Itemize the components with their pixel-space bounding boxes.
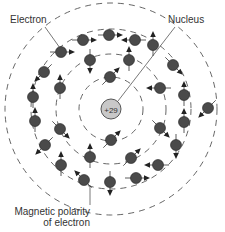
polarity-arrow-icon <box>107 190 113 196</box>
polarity-arrow-icon <box>150 31 156 37</box>
electron-body <box>85 55 96 66</box>
electron-body <box>104 30 115 41</box>
electron-body <box>203 103 214 114</box>
electron-body <box>39 67 50 78</box>
electron-body <box>130 35 141 46</box>
electron-body <box>85 152 96 163</box>
electron-body <box>126 153 137 164</box>
electron-body <box>168 60 179 71</box>
electron <box>152 120 170 138</box>
electron <box>179 81 190 106</box>
electron <box>144 160 169 171</box>
polarity-arrow-icon <box>91 37 97 43</box>
electron-body <box>179 90 190 101</box>
electron-label: Electron <box>10 14 47 25</box>
electron-body <box>78 35 89 46</box>
electron <box>165 57 183 75</box>
polarity-arrow-icon <box>146 85 152 91</box>
electron <box>103 130 121 148</box>
electron-body <box>56 47 67 58</box>
polarity-arrow-icon <box>87 68 93 74</box>
electron <box>55 74 66 99</box>
electron <box>56 151 67 176</box>
polarity-arrow-icon <box>121 37 127 43</box>
electron-body <box>171 140 182 151</box>
electron <box>72 35 97 46</box>
nucleus-label: Nucleus <box>168 14 204 25</box>
electron <box>121 35 146 46</box>
electron-body <box>105 72 116 83</box>
electron <box>35 137 53 155</box>
electron-body <box>179 117 190 128</box>
polarity-label-line1: Magnetic polarity <box>10 206 90 217</box>
electron <box>50 47 75 58</box>
magnetic-polarity-label: Magnetic polarity of electron <box>10 206 90 228</box>
electron <box>30 107 41 132</box>
electron-body <box>148 40 159 51</box>
electron <box>125 173 150 184</box>
polarity-arrow-icon <box>58 151 64 157</box>
polarity-arrow-icon <box>57 74 63 80</box>
electron <box>98 30 123 41</box>
polarity-arrow-icon <box>181 108 187 114</box>
polarity-arrow-icon <box>144 175 150 181</box>
electron-body <box>56 160 67 171</box>
atom-diagram: +29 <box>0 0 225 232</box>
electron-body <box>106 135 117 146</box>
polarity-arrow-icon <box>173 153 179 159</box>
nucleus-charge: +29 <box>104 106 118 115</box>
electron-body <box>155 83 166 94</box>
polarity-arrow-icon <box>117 32 123 38</box>
nucleus: +29 <box>101 99 121 119</box>
electron-body <box>28 92 39 103</box>
electron <box>198 100 216 118</box>
electron <box>146 83 171 94</box>
polarity-label-line2: of electron <box>10 217 90 228</box>
electron-body <box>131 173 142 184</box>
polarity-arrow-icon <box>87 143 93 149</box>
electron-leader-line <box>45 27 60 48</box>
electron-body <box>105 177 116 188</box>
electron <box>102 67 120 85</box>
electron-body <box>30 116 41 127</box>
electron <box>124 46 135 71</box>
electron <box>179 108 190 133</box>
electron-body <box>79 175 90 186</box>
electron <box>52 121 70 139</box>
electron <box>74 170 92 188</box>
polarity-arrow-icon <box>144 162 150 168</box>
electron <box>105 171 116 196</box>
electron-body <box>155 123 166 134</box>
polarity-arrow-icon <box>69 49 75 55</box>
polarity-arrow-icon <box>126 46 132 52</box>
electron-body <box>40 140 51 151</box>
electron <box>148 31 159 56</box>
electron-body <box>153 160 164 171</box>
electron-body <box>124 55 135 66</box>
electron <box>171 134 182 159</box>
electron <box>28 83 39 108</box>
electron <box>85 143 96 168</box>
electron-body <box>55 124 66 135</box>
electron-body <box>55 83 66 94</box>
electron <box>85 49 96 74</box>
electron <box>34 64 52 82</box>
